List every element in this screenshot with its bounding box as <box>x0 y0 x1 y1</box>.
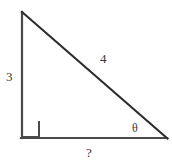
triangle-drawing <box>0 0 172 164</box>
triangle-figure: 3 4 θ ? <box>0 0 172 164</box>
label-horizontal-leg: ? <box>86 146 92 159</box>
hypotenuse-line <box>22 12 168 139</box>
label-vertical-leg: 3 <box>6 70 13 83</box>
label-angle-theta: θ <box>132 122 138 135</box>
right-angle-marker <box>23 122 39 137</box>
label-hypotenuse: 4 <box>100 52 107 65</box>
